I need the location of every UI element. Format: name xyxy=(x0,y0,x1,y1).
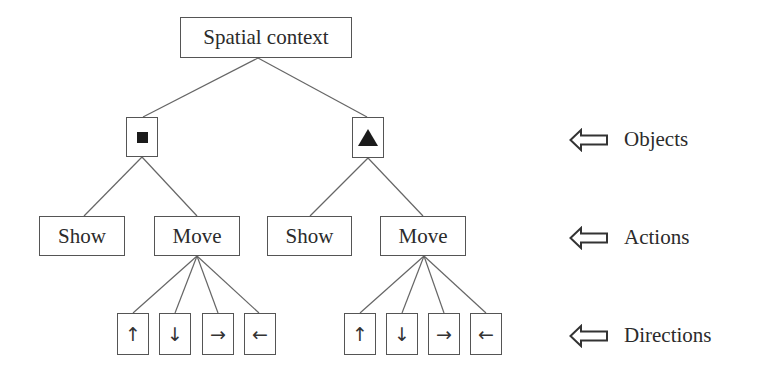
action-label: Show xyxy=(286,226,334,247)
level-label-directions: Directions xyxy=(569,323,711,348)
level-label-objects: Objects xyxy=(569,127,688,152)
direction-node-down-right: ↓ xyxy=(386,313,418,355)
arrow-down-icon: ↓ xyxy=(394,325,410,344)
connector-lines xyxy=(0,0,757,374)
arrow-down-icon: ↓ xyxy=(167,325,183,344)
level-label-text: Objects xyxy=(624,127,688,152)
arrow-up-icon: ↑ xyxy=(125,325,141,344)
action-node-show-left: Show xyxy=(39,216,125,256)
action-node-move-right: Move xyxy=(380,216,466,256)
arrow-left-icon: ← xyxy=(252,325,268,344)
action-label: Show xyxy=(58,226,106,247)
hollow-left-arrow-icon xyxy=(569,128,609,152)
action-label: Move xyxy=(399,226,448,247)
hollow-left-arrow-icon xyxy=(569,226,609,250)
arrow-right-icon: → xyxy=(210,325,226,344)
level-label-text: Directions xyxy=(624,323,711,348)
direction-node-right-right: → xyxy=(428,313,460,355)
object-node-triangle xyxy=(352,117,384,158)
direction-node-right-left: → xyxy=(202,313,234,355)
direction-node-up-left: ↑ xyxy=(117,313,149,355)
direction-node-down-left: ↓ xyxy=(159,313,191,355)
arrow-left-icon: ← xyxy=(478,325,494,344)
root-node-label: Spatial context xyxy=(203,27,328,48)
direction-node-left-left: ← xyxy=(244,313,276,355)
arrow-up-icon: ↑ xyxy=(352,325,368,344)
direction-node-up-right: ↑ xyxy=(344,313,376,355)
square-icon xyxy=(137,132,148,143)
object-node-square xyxy=(126,117,158,157)
root-node-spatial-context: Spatial context xyxy=(180,17,352,58)
action-node-move-left: Move xyxy=(154,216,240,256)
level-label-actions: Actions xyxy=(569,225,689,250)
direction-node-left-right: ← xyxy=(470,313,502,355)
arrow-right-icon: → xyxy=(436,325,452,344)
hollow-left-arrow-icon xyxy=(569,324,609,348)
action-node-show-right: Show xyxy=(267,216,352,256)
triangle-icon xyxy=(358,129,378,146)
hierarchy-diagram: Spatial context Show Move Show Move ↑ ↓ … xyxy=(0,0,757,374)
action-label: Move xyxy=(173,226,222,247)
level-label-text: Actions xyxy=(624,225,689,250)
